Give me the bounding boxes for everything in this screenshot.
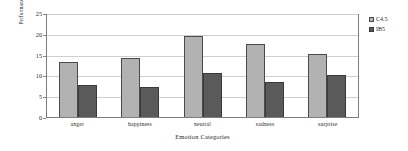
bar-group: [171, 14, 233, 117]
x-tick-label: sadness: [234, 121, 297, 128]
legend-swatch-icon: [369, 27, 374, 32]
y-tick-label: 15: [26, 53, 42, 59]
y-tick-label: 0: [26, 115, 42, 121]
legend-item-IB5[interactable]: IB5: [369, 24, 407, 34]
y-tick-label: 20: [26, 32, 42, 38]
y-axis-tick-labels: 0510152025: [26, 14, 42, 118]
legend-label: IB5: [376, 26, 385, 32]
y-tick-label: 10: [26, 73, 42, 79]
x-tick-label: surprise: [296, 121, 359, 128]
bar-happiness-IB5[interactable]: [140, 87, 159, 117]
y-axis-title: Performance Enhancement (%): [16, 0, 26, 38]
bar-happiness-C4.5[interactable]: [121, 58, 140, 117]
bar-neutral-IB5[interactable]: [203, 73, 222, 117]
bar-surprise-C4.5[interactable]: [308, 54, 327, 117]
bar-sadness-IB5[interactable]: [265, 82, 284, 117]
bar-anger-C4.5[interactable]: [59, 62, 78, 117]
plot-area: [46, 14, 359, 118]
legend-swatch-icon: [369, 17, 374, 22]
bar-group: [109, 14, 171, 117]
bar-groups: [47, 14, 358, 117]
x-tick-label: neutral: [171, 121, 234, 128]
x-tick-label: anger: [46, 121, 109, 128]
bar-group: [47, 14, 109, 117]
bar-group: [234, 14, 296, 117]
x-tick-label: happiness: [109, 121, 172, 128]
y-tick-mark: [43, 118, 46, 119]
bar-neutral-C4.5[interactable]: [184, 36, 203, 117]
bar-group: [296, 14, 358, 117]
bar-anger-IB5[interactable]: [78, 85, 97, 117]
bar-sadness-C4.5[interactable]: [246, 44, 265, 117]
legend-label: C4.5: [376, 16, 388, 22]
legend: C4.5IB5: [368, 13, 407, 35]
x-axis-title: Emotion Categories: [46, 133, 359, 141]
y-tick-label: 25: [26, 11, 42, 17]
x-axis-tick-labels: angerhappinessneutralsadnesssurprise: [46, 121, 359, 128]
y-tick-label: 5: [26, 94, 42, 100]
bar-surprise-IB5[interactable]: [327, 75, 346, 117]
bar-chart-figure: Performance Enhancement (%) 0510152025 a…: [0, 0, 408, 151]
legend-item-C4.5[interactable]: C4.5: [369, 14, 407, 24]
